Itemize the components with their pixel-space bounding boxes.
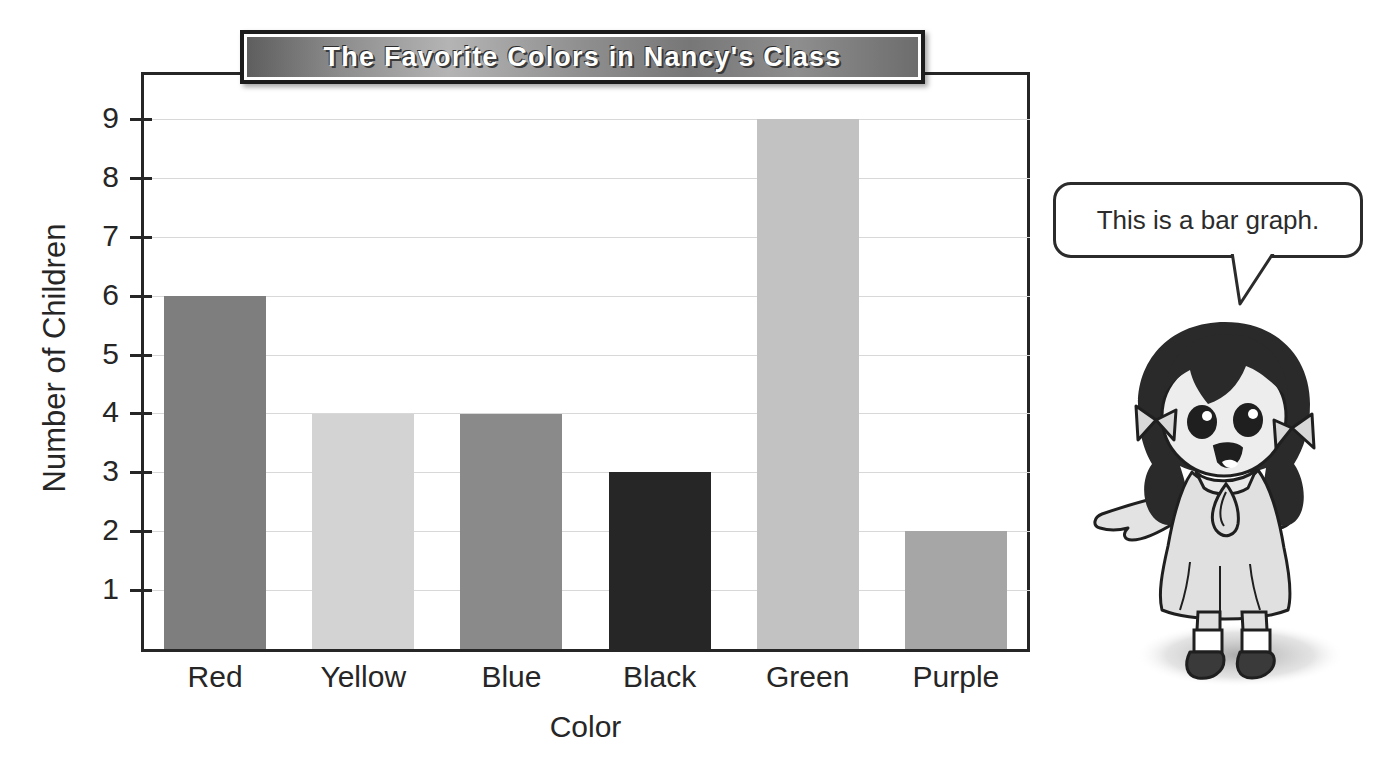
y-axis-tick-label: 5 [79, 339, 119, 369]
gridline [141, 355, 1030, 356]
y-axis-tick [130, 295, 152, 298]
x-axis-title: Color [141, 710, 1030, 744]
chart-title-banner-inner: The Favorite Colors in Nancy's Class [244, 34, 921, 80]
bar-green [757, 119, 859, 649]
x-axis-label-red: Red [141, 662, 289, 692]
y-axis-tick-label: 4 [79, 397, 119, 427]
bar-purple [905, 531, 1007, 649]
y-axis-tick-label: 8 [79, 162, 119, 192]
speech-bubble: This is a bar graph. [1053, 182, 1363, 258]
x-axis-label-black: Black [586, 662, 734, 692]
right-eye-highlight [1248, 409, 1258, 419]
left-shoe [1187, 652, 1224, 678]
x-axis-label-purple: Purple [882, 662, 1030, 692]
gridline [141, 472, 1030, 473]
left-sock [1194, 630, 1222, 652]
y-axis-tick-label: 3 [79, 456, 119, 486]
y-axis-tick [130, 236, 152, 239]
speech-bubble-text: This is a bar graph. [1097, 205, 1320, 236]
y-axis-tick [130, 471, 152, 474]
left-eye [1187, 405, 1217, 439]
y-axis-title: Number of Children [37, 128, 73, 588]
bar-blue [460, 414, 562, 650]
gridline [141, 296, 1030, 297]
right-sock [1242, 630, 1270, 652]
chart-plot-area [141, 72, 1030, 652]
bar-black [609, 472, 711, 649]
x-axis-label-yellow: Yellow [289, 662, 437, 692]
right-eye [1233, 403, 1263, 437]
left-eye-highlight [1202, 411, 1212, 421]
cut-off-text-artifact [250, 0, 670, 6]
gridline [141, 413, 1030, 414]
y-axis-tick [130, 118, 152, 121]
y-axis-tick-label: 7 [79, 221, 119, 251]
y-axis-tick [130, 412, 152, 415]
worksheet-page: 123456789 RedYellowBlueBlackGreenPurple … [0, 0, 1399, 766]
y-axis-tick-label: 6 [79, 280, 119, 310]
chart-title-text: The Favorite Colors in Nancy's Class [324, 42, 842, 73]
chart-title-banner: The Favorite Colors in Nancy's Class [240, 30, 925, 84]
y-axis-tick [130, 589, 152, 592]
y-axis-tick [130, 530, 152, 533]
gridline [141, 237, 1030, 238]
gridline [141, 119, 1030, 120]
y-axis-tick-label: 2 [79, 515, 119, 545]
bar-red [164, 296, 266, 649]
gridline [141, 590, 1030, 591]
girl-character-illustration [1080, 300, 1370, 700]
gridline [141, 178, 1030, 179]
gridline [141, 531, 1030, 532]
y-axis-tick-label: 9 [79, 103, 119, 133]
bar-yellow [312, 414, 414, 650]
y-axis-tick [130, 354, 152, 357]
y-axis-tick-label: 1 [79, 574, 119, 604]
y-axis-tick [130, 177, 152, 180]
x-axis-label-blue: Blue [437, 662, 585, 692]
x-axis-label-green: Green [734, 662, 882, 692]
